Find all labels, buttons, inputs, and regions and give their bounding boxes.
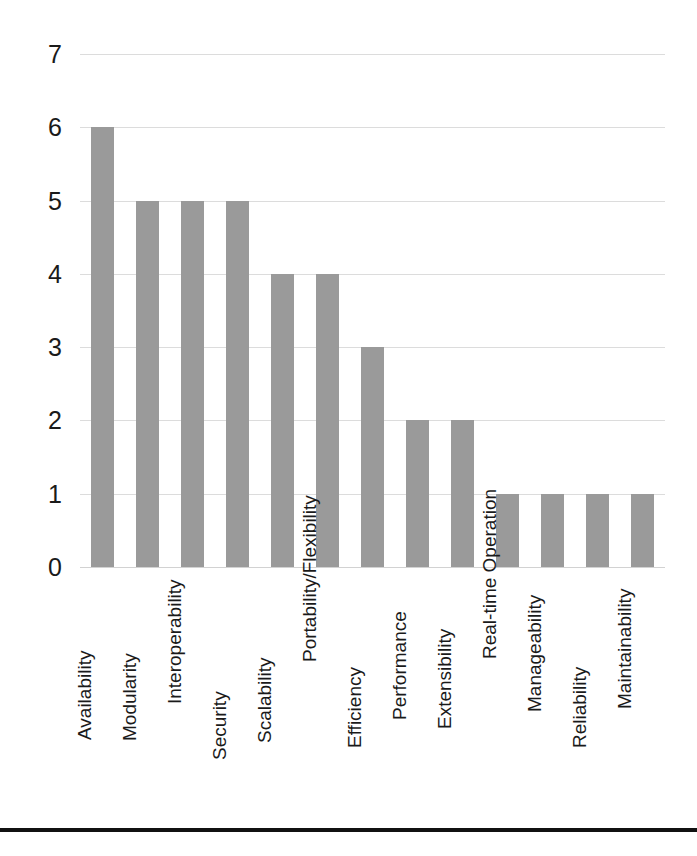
x-axis-tick-label: Portability/Flexibility bbox=[299, 495, 318, 662]
bar[interactable] bbox=[226, 201, 249, 567]
plot-area bbox=[80, 54, 665, 567]
y-tick-label: 3 bbox=[0, 335, 72, 360]
bar-slot bbox=[170, 54, 215, 567]
x-axis-tick-label: Manageability bbox=[524, 595, 543, 712]
x-axis-tick-label: Extensibility bbox=[434, 628, 453, 728]
bar-slot bbox=[305, 54, 350, 567]
y-tick-label: 4 bbox=[0, 261, 72, 286]
x-axis-labels: AvailabilityModularityInteroperabilitySe… bbox=[80, 569, 665, 829]
bar-slot bbox=[125, 54, 170, 567]
bar-series bbox=[80, 54, 665, 567]
x-axis-tick-label: Scalability bbox=[254, 658, 273, 744]
bar[interactable] bbox=[586, 494, 609, 567]
x-label-slot: Maintainability bbox=[620, 569, 665, 829]
bar-slot bbox=[80, 54, 125, 567]
caption-strip bbox=[0, 836, 697, 856]
y-tick-label: 6 bbox=[0, 115, 72, 140]
bar-slot bbox=[575, 54, 620, 567]
bar-slot bbox=[260, 54, 305, 567]
bar-chart: 76543210 AvailabilityModularityInteroper… bbox=[0, 0, 697, 600]
x-axis-tick-label: Availability bbox=[74, 650, 93, 739]
bar[interactable] bbox=[136, 201, 159, 567]
x-axis-tick-label: Reliability bbox=[569, 666, 588, 747]
x-axis-tick-label: Maintainability bbox=[614, 588, 633, 708]
bottom-divider bbox=[0, 828, 697, 832]
bar[interactable] bbox=[451, 420, 474, 567]
x-axis-tick-label: Modularity bbox=[119, 654, 138, 742]
bar-slot bbox=[620, 54, 665, 567]
y-tick-label: 5 bbox=[0, 188, 72, 213]
x-axis-tick-label: Efficiency bbox=[344, 667, 363, 748]
bar[interactable] bbox=[271, 274, 294, 567]
bar-slot bbox=[530, 54, 575, 567]
x-axis-tick-label: Real-time Operation bbox=[479, 489, 498, 659]
x-axis-tick-label: Performance bbox=[389, 611, 408, 720]
bar[interactable] bbox=[631, 494, 654, 567]
y-axis: 76543210 bbox=[0, 0, 72, 600]
x-axis-tick-label: Interoperability bbox=[164, 580, 183, 705]
bar[interactable] bbox=[181, 201, 204, 567]
x-axis-tick-label: Security bbox=[209, 692, 228, 761]
bar[interactable] bbox=[541, 494, 564, 567]
gridline bbox=[80, 567, 665, 568]
bar[interactable] bbox=[406, 420, 429, 567]
y-tick-label: 7 bbox=[0, 42, 72, 67]
bar-slot bbox=[215, 54, 260, 567]
figure-container: 76543210 AvailabilityModularityInteroper… bbox=[0, 0, 697, 856]
bar-slot bbox=[350, 54, 395, 567]
bar-slot bbox=[395, 54, 440, 567]
y-tick-label: 1 bbox=[0, 481, 72, 506]
y-tick-label: 0 bbox=[0, 555, 72, 580]
bar[interactable] bbox=[91, 127, 114, 567]
bar[interactable] bbox=[361, 347, 384, 567]
y-tick-label: 2 bbox=[0, 408, 72, 433]
